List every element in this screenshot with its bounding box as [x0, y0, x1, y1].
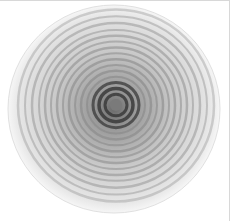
plate-illustration	[6, 3, 222, 215]
plate-center	[110, 99, 122, 111]
plate-photo	[6, 3, 222, 215]
